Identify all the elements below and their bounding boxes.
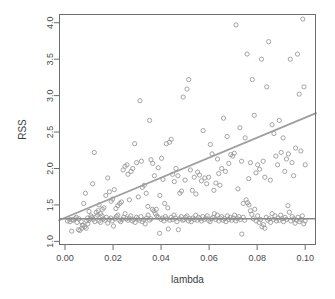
x-tick-label: 0.08 bbox=[248, 253, 266, 263]
x-tick-label: 0.00 bbox=[56, 253, 74, 263]
y-tick-label: 2.5 bbox=[45, 126, 55, 139]
scatter-plot-svg: 0.000.020.040.060.080.101.01.52.02.53.03… bbox=[0, 0, 335, 299]
x-axis-title: lambda bbox=[171, 274, 204, 285]
x-tick-label: 0.02 bbox=[104, 253, 122, 263]
x-tick-label: 0.04 bbox=[152, 253, 170, 263]
y-tick-label: 1.0 bbox=[45, 235, 55, 248]
y-tick-label: 3.0 bbox=[45, 89, 55, 102]
chart-figure: 0.000.020.040.060.080.101.01.52.02.53.03… bbox=[0, 0, 335, 299]
y-axis-title: RSS bbox=[17, 119, 28, 140]
x-tick-label: 0.06 bbox=[200, 253, 218, 263]
y-tick-label: 3.5 bbox=[45, 53, 55, 66]
x-tick-label: 0.10 bbox=[296, 253, 314, 263]
y-tick-label: 1.5 bbox=[45, 199, 55, 212]
y-tick-label: 4.0 bbox=[45, 16, 55, 29]
y-tick-label: 2.0 bbox=[45, 162, 55, 175]
